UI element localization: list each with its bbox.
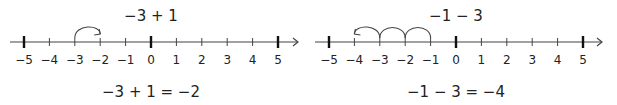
jump-arrowhead-icon (354, 29, 360, 35)
tick-label: 1 (173, 53, 181, 67)
tick-label: −1 (422, 53, 440, 67)
tick-label: 0 (452, 53, 460, 67)
tick-label: 0 (147, 53, 155, 67)
tick-label: −3 (371, 53, 389, 67)
tick-label: −3 (66, 53, 84, 67)
tick-label: −4 (41, 53, 59, 67)
jump-arc (354, 27, 379, 38)
jump-arrowhead-icon (94, 29, 100, 35)
tick-label: −2 (396, 53, 414, 67)
jump-arc (75, 27, 100, 38)
tick-label: −4 (346, 53, 364, 67)
number-line-left: −5−4−3−2−1012345−3 + 1−3 + 1 = −2 (10, 7, 298, 101)
tick-label: 3 (223, 53, 231, 67)
tick-label: 5 (274, 53, 282, 67)
expression-title: −3 + 1 (124, 7, 178, 25)
tick-label: 2 (198, 53, 206, 67)
expression-result: −1 − 3 = −4 (407, 83, 505, 101)
tick-label: −5 (320, 53, 338, 67)
number-line-diagrams: −5−4−3−2−1012345−3 + 1−3 + 1 = −2−5−4−3−… (0, 0, 617, 105)
tick-label: 3 (528, 53, 536, 67)
tick-label: 4 (249, 53, 257, 67)
tick-label: 5 (579, 53, 587, 67)
tick-label: −1 (117, 53, 135, 67)
number-line-right: −5−4−3−2−1012345−1 − 3−1 − 3 = −4 (315, 7, 602, 101)
expression-title: −1 − 3 (429, 7, 483, 25)
jump-arc (380, 28, 405, 39)
tick-label: 2 (503, 53, 511, 67)
tick-label: 4 (554, 53, 562, 67)
tick-label: −2 (91, 53, 109, 67)
tick-label: 1 (478, 53, 486, 67)
expression-result: −3 + 1 = −2 (102, 83, 200, 101)
jump-arc (405, 28, 430, 39)
tick-label: −5 (15, 53, 33, 67)
